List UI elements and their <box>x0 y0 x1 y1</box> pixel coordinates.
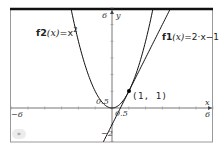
f1-arg: (x) <box>172 32 184 42</box>
x-axis-name: x <box>205 98 210 107</box>
double-chevron-icon: » <box>17 130 21 138</box>
x-max-label: 6 <box>205 110 210 119</box>
f2-arg: (x) <box>47 27 60 38</box>
half-x-label: 0.5 <box>115 109 128 118</box>
f1-rhs: =2·x−1 <box>184 32 219 42</box>
y-axis-name: y <box>116 11 121 20</box>
f2-exponent: 2 <box>73 26 77 34</box>
f2-rhs: =x <box>60 27 74 38</box>
menu-expand-button[interactable]: » <box>12 129 26 139</box>
f2-label[interactable]: f2(x)=x2 <box>36 26 78 38</box>
point-label: (1, 1) <box>132 91 168 101</box>
f1-label[interactable]: f1(x)=2·x−1 <box>162 32 219 42</box>
half-y-label: 0.5 <box>96 97 109 106</box>
point-1-1[interactable] <box>127 89 131 93</box>
f1-name: f1 <box>162 32 172 42</box>
f2-name: f2 <box>36 27 47 38</box>
y-max-label: 6 <box>102 11 107 20</box>
y-min-label: −2 <box>101 129 113 138</box>
x-min-label: −6 <box>11 110 23 119</box>
